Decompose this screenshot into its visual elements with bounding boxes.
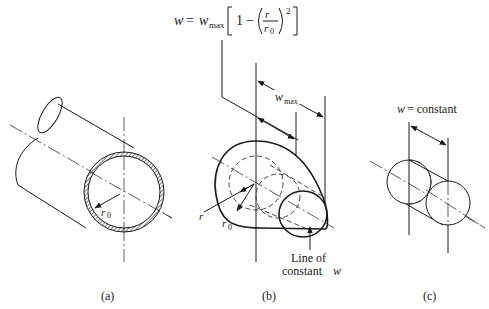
panel-b-paraboloid: w max r r 0 Line of constant w (b): [199, 40, 341, 303]
panel-c-uniform: w = constant (c): [370, 102, 485, 303]
formula-right-bracket: [293, 7, 297, 35]
constant-w-label-2: constant: [282, 264, 323, 278]
c-title-w: w: [397, 102, 405, 116]
formula-one: 1: [236, 13, 243, 28]
constant-w-label-1: Line of: [291, 251, 326, 265]
pipe-radius-label: r: [101, 206, 106, 218]
pipe-radius-label-sub: 0: [107, 211, 111, 220]
formula-wmax: w: [199, 13, 209, 28]
formula-right-paren: [279, 8, 283, 34]
wmax-label: w: [275, 90, 283, 104]
constant-w-label-w: w: [333, 264, 341, 278]
c-top-edge: [409, 160, 448, 181]
caption-a: (a): [101, 289, 114, 303]
pipe-top-edge: [58, 104, 134, 148]
formula-left-paren: [259, 8, 263, 34]
caption-b: (b): [262, 289, 276, 303]
pipe-back-opening: [33, 94, 67, 137]
constant-w-line-lower: [250, 205, 305, 228]
c-title-rest: = constant: [407, 102, 457, 116]
constant-w-line-upper: [270, 165, 325, 198]
formula-left-bracket: [228, 7, 232, 35]
r0-label: r: [222, 217, 227, 229]
r0-arrow: [237, 184, 254, 211]
velocity-profile-figure: w = w max 1 − r r 0 2 r 0 (a): [0, 0, 489, 309]
formula-r0: r: [264, 22, 269, 34]
wmax-label-sub: max: [284, 97, 298, 106]
c-dimension-arrow: [411, 126, 446, 145]
formula-minus: −: [246, 13, 254, 28]
paraboloid-front-circle: [279, 191, 327, 237]
velocity-formula: w = w max 1 − r r 0 2: [174, 6, 297, 36]
formula-wmax-sub: max: [209, 20, 225, 30]
r-label: r: [199, 210, 204, 222]
formula-r: r: [265, 8, 270, 20]
paraboloid-outline: [215, 141, 327, 229]
pipe-bottom-edge: [16, 138, 86, 228]
formula-r0-sub: 0: [270, 27, 274, 36]
caption-c: (c): [423, 289, 436, 303]
formula-equals: =: [186, 13, 194, 28]
formula-exponent: 2: [286, 6, 291, 16]
r0-label-sub: 0: [228, 223, 232, 232]
hidden-mid-circle: [256, 174, 300, 218]
formula-dimension-arrow: [258, 118, 294, 139]
formula-w: w: [174, 13, 184, 28]
panel-a-pipe: r 0 (a): [10, 94, 172, 303]
